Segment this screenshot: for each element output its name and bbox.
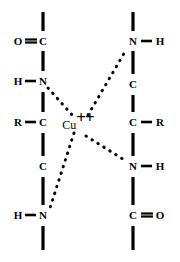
atom-label-l-c-low: C xyxy=(39,161,47,172)
atom-label-l-r: R xyxy=(14,117,22,128)
atom-label-l-n-up: N xyxy=(39,76,47,87)
atom-label-l-o-top: O xyxy=(14,36,23,47)
metal-charge: ++ xyxy=(76,108,93,127)
bond-coord-N-lower-right xyxy=(86,136,126,161)
bond-coord-N-lower-left xyxy=(50,133,74,208)
atom-label-l-n-low: N xyxy=(39,210,47,221)
chelate-structure-diagram: OCHNRCCHNNHCCRNHCO Cu++ xyxy=(0,0,180,262)
metal-center-label: Cu++ xyxy=(62,115,93,133)
atom-label-l-h-low: H xyxy=(14,210,23,221)
atom-label-r-h-low: H xyxy=(156,161,165,172)
atom-label-r-c-up: C xyxy=(129,79,137,90)
bond-coord-N-upper-right xyxy=(88,50,126,115)
atom-label-l-h-up: H xyxy=(14,76,23,87)
atom-label-r-c-low: C xyxy=(129,210,137,221)
atom-label-r-h-top: H xyxy=(156,36,165,47)
atom-label-l-c-mid: C xyxy=(39,117,47,128)
atom-label-r-c-mid: C xyxy=(129,117,137,128)
atom-label-r-r: R xyxy=(156,117,164,128)
metal-symbol: Cu xyxy=(62,118,76,132)
atom-label-r-o-low: O xyxy=(156,210,165,221)
bond-coord-N-upper-left xyxy=(48,88,74,117)
atom-label-l-c-top: C xyxy=(39,36,47,47)
atom-label-r-n-low: N xyxy=(129,161,137,172)
atom-label-r-n-top: N xyxy=(129,36,137,47)
